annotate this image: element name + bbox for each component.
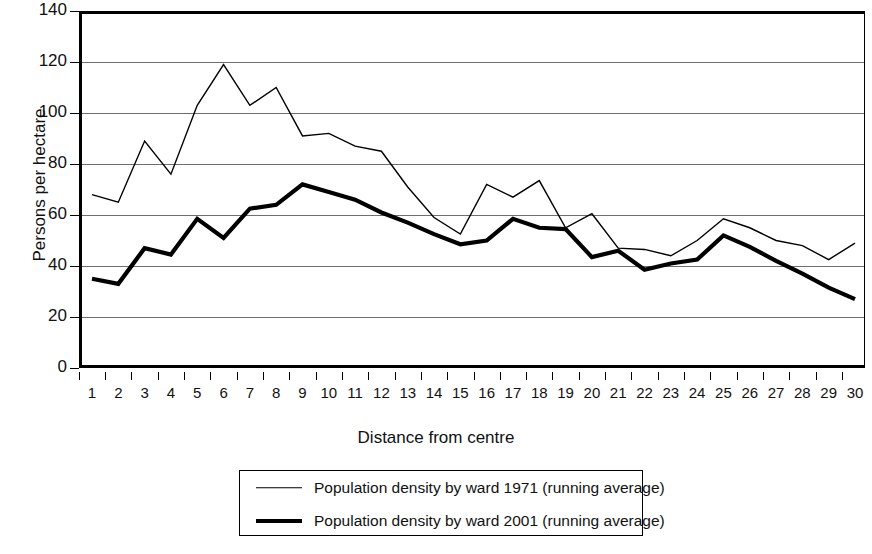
series-line-1971 — [92, 65, 855, 260]
x-axis-tick-mark — [474, 372, 475, 380]
x-axis-tick-mark — [210, 372, 211, 380]
x-axis-tick-mark — [605, 372, 606, 380]
y-axis-tick-mark — [70, 11, 79, 12]
legend-item-2001: Population density by ward 2001 (running… — [240, 504, 642, 537]
legend-swatch-thin-line-icon — [256, 483, 302, 493]
x-axis-tick-mark — [526, 372, 527, 380]
y-axis-tick-mark — [70, 266, 79, 267]
x-axis-tick-mark — [368, 372, 369, 380]
x-axis-tick-mark — [105, 372, 106, 380]
chart-figure: Persons per hectare 020406080100120140 1… — [0, 0, 872, 554]
x-axis-tick-mark — [263, 372, 264, 380]
x-axis-tick-mark — [658, 372, 659, 380]
y-axis-tick-label: 20 — [21, 306, 67, 326]
y-axis-tick-mark — [70, 215, 79, 216]
x-axis-tick-mark — [789, 372, 790, 380]
x-axis-title: Distance from centre — [0, 428, 872, 448]
x-axis-tick-mark — [158, 372, 159, 380]
y-axis-tick-label: 80 — [21, 153, 67, 173]
x-axis-tick-mark — [737, 372, 738, 380]
series-line-2001 — [92, 184, 855, 299]
y-axis-tick-mark — [70, 368, 79, 369]
y-axis-title: Persons per hectare — [30, 35, 50, 335]
x-axis-tick-labels: 1234567891011121314151617181920212223242… — [0, 372, 872, 432]
y-axis-tick-mark — [70, 164, 79, 165]
y-axis-tick-mark — [70, 62, 79, 63]
y-axis-tick-label: 60 — [21, 204, 67, 224]
x-axis-tick-mark — [842, 372, 843, 380]
y-axis-tick-label: 140 — [21, 0, 67, 20]
y-axis-tick-label: 40 — [21, 255, 67, 275]
x-axis-tick-mark — [631, 372, 632, 380]
x-axis-tick-mark — [342, 372, 343, 380]
x-axis-tick-mark — [316, 372, 317, 380]
y-axis-tick-label: 120 — [21, 51, 67, 71]
x-axis-tick-mark — [447, 372, 448, 380]
legend-label-2001: Population density by ward 2001 (running… — [314, 512, 665, 530]
x-axis-tick-mark — [552, 372, 553, 380]
series-lines — [79, 11, 865, 368]
x-axis-tick-mark — [131, 372, 132, 380]
x-axis-tick-mark — [500, 372, 501, 380]
legend-label-1971: Population density by ward 1971 (running… — [314, 479, 665, 497]
y-axis-tick-mark — [70, 113, 79, 114]
x-axis-tick-mark — [184, 372, 185, 380]
x-axis-tick-mark — [79, 372, 80, 380]
x-axis-tick-label: 30 — [840, 384, 870, 401]
legend-swatch-thick-line-icon — [256, 516, 302, 526]
y-axis-tick-mark — [70, 317, 79, 318]
legend: Population density by ward 1971 (running… — [239, 470, 643, 536]
x-axis-tick-mark — [763, 372, 764, 380]
x-axis-tick-mark — [684, 372, 685, 380]
x-axis-tick-mark — [710, 372, 711, 380]
x-axis-tick-mark — [421, 372, 422, 380]
plot-area — [79, 11, 865, 368]
x-axis-tick-mark — [395, 372, 396, 380]
x-axis-tick-mark — [237, 372, 238, 380]
legend-item-1971: Population density by ward 1971 (running… — [240, 471, 642, 504]
y-axis-tick-label: 100 — [21, 102, 67, 122]
x-axis-tick-mark — [579, 372, 580, 380]
x-axis-tick-mark — [816, 372, 817, 380]
x-axis-tick-mark — [289, 372, 290, 380]
